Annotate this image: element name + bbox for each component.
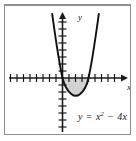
equation-lhs: y [78,111,83,122]
equation-term1-exponent: 2 [101,110,104,117]
y-axis-arrow-icon [59,12,66,19]
y-axis-label: y [78,13,82,22]
equation-equals: = [85,111,93,122]
x-axis-label: x [127,83,131,92]
parabola-figure: y x y = x2 − 4x [0,0,136,141]
equation-minus-sign: − [107,111,115,122]
x-axis-arrow-icon [121,74,128,81]
equation-term2: 4x [117,111,127,122]
equation-label: y = x2 − 4x [78,112,127,122]
plot-frame: y x y = x2 − 4x [4,4,131,135]
